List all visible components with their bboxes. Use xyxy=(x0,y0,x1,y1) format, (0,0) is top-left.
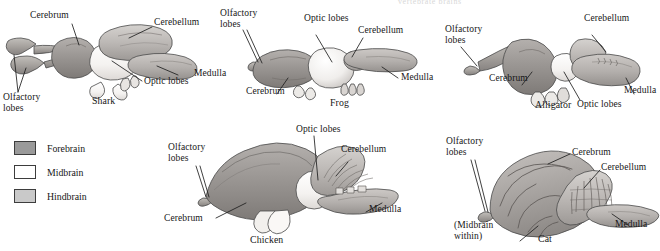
label-shark-optic-lobes: Optic lobes xyxy=(144,76,189,87)
caption-frog: Frog xyxy=(330,98,349,109)
label-cat-midbrain-line1: (Midbrain xyxy=(454,220,493,231)
legend-item-midbrain: Midbrain xyxy=(14,160,134,184)
legend-label-hindbrain: Hindbrain xyxy=(47,191,87,202)
label-alligator-olfactory-lobes-line1: Olfactory xyxy=(445,24,482,35)
caption-chicken: Chicken xyxy=(250,235,283,246)
label-alligator-cerebrum: Cerebrum xyxy=(489,73,528,84)
legend-swatch-hindbrain xyxy=(14,189,36,203)
label-cat-cerebrum: Cerebrum xyxy=(572,147,611,158)
label-chicken-medulla: Medulla xyxy=(369,204,401,215)
label-frog-optic-lobes: Optic lobes xyxy=(304,13,349,24)
legend-item-forebrain: Forebrain xyxy=(14,136,134,160)
label-shark-cerebellum: Cerebellum xyxy=(154,17,199,28)
label-chicken-optic-lobes: Optic lobes xyxy=(296,124,341,135)
label-alligator-medulla: Medulla xyxy=(624,85,656,96)
label-shark-medulla: Medulla xyxy=(194,68,226,79)
label-cat-cerebellum: Cerebellum xyxy=(601,162,646,173)
legend-swatch-forebrain xyxy=(14,141,36,155)
label-alligator-olfactory-lobes-line2: lobes xyxy=(445,35,466,46)
chicken-brain-art xyxy=(198,143,398,234)
comparative-brain-figure: vertebrate brains xyxy=(0,0,660,251)
label-frog-olfactory-lobes-line2: lobes xyxy=(220,19,241,30)
label-shark-cerebrum: Cerebrum xyxy=(30,10,69,21)
label-frog-cerebrum: Cerebrum xyxy=(246,86,285,97)
label-frog-olfactory-lobes-line1: Olfactory xyxy=(220,8,257,19)
label-cat-olfactory-lobes-line2: lobes xyxy=(446,147,467,158)
label-frog-medulla: Medulla xyxy=(401,72,433,83)
label-frog-cerebellum: Cerebellum xyxy=(358,25,403,36)
legend-label-forebrain: Forebrain xyxy=(47,143,85,154)
label-cat-midbrain-line2: within) xyxy=(454,231,482,242)
label-alligator-cerebellum: Cerebellum xyxy=(584,13,629,24)
label-chicken-olfactory-lobes-line2: lobes xyxy=(168,153,189,164)
label-chicken-olfactory-lobes-line1: Olfactory xyxy=(168,142,205,153)
legend-label-midbrain: Midbrain xyxy=(47,167,83,178)
label-shark-olfactory-lobes-line1: Olfactory xyxy=(3,92,40,103)
legend-swatch-midbrain xyxy=(14,165,36,179)
shark-brain-art xyxy=(6,25,197,100)
figure-title-fragment: vertebrate brains xyxy=(398,0,462,6)
label-cat-medulla: Medulla xyxy=(615,219,647,230)
label-chicken-cerebellum: Cerebellum xyxy=(341,144,386,155)
caption-shark: Shark xyxy=(92,96,115,107)
brain-region-legend: Forebrain Midbrain Hindbrain xyxy=(14,136,134,208)
label-cat-olfactory-lobes-line1: Olfactory xyxy=(446,136,483,147)
label-chicken-cerebrum: Cerebrum xyxy=(164,213,203,224)
caption-cat: Cat xyxy=(538,234,552,245)
label-shark-olfactory-lobes-line2: lobes xyxy=(3,103,24,114)
legend-item-hindbrain: Hindbrain xyxy=(14,184,134,208)
caption-alligator: Alligator xyxy=(535,100,571,111)
label-alligator-optic-lobes: Optic lobes xyxy=(577,99,622,110)
